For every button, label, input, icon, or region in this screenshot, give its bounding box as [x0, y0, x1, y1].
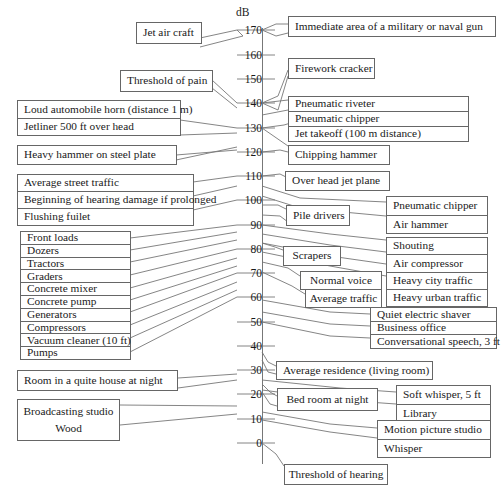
- axis-tick-160: 160: [228, 49, 262, 61]
- axis-tick-110: 110: [228, 170, 262, 182]
- label-average-street-traffic: Average street traffic: [18, 175, 193, 192]
- axis-tick-20: 20: [228, 388, 262, 400]
- label-concrete-mixer: Concrete mixer: [21, 283, 130, 296]
- label-pneumatic-chipper-2: Pneumatic chipper: [387, 197, 487, 216]
- label-group-pneumatic: Pneumatic riveter Pneumatic chipper Jet …: [288, 96, 469, 142]
- label-conversational-speech: Conversational speech, 3 ft: [371, 335, 496, 348]
- label-pumps: Pumps: [21, 347, 130, 359]
- label-military-naval-gun: Immediate area of a military or naval gu…: [288, 16, 496, 37]
- axis-tick-30: 30: [228, 364, 262, 376]
- label-broadcasting-studio-line2: Wood: [55, 423, 82, 434]
- label-heavy-hammer-steel-plate: Heavy hammer on steel plate: [17, 145, 177, 165]
- label-bed-room-at-night: Bed room at night: [277, 388, 378, 411]
- label-shouting: Shouting: [387, 238, 487, 255]
- axis-tick-150: 150: [228, 73, 262, 85]
- label-average-traffic: Average traffic: [305, 289, 382, 308]
- axis-tick-70: 70: [228, 267, 262, 279]
- label-flushing-toilet: Flushing fuilet: [18, 209, 193, 225]
- label-scrapers: Scrapers: [283, 246, 341, 266]
- label-chipping-hammer: Chipping hammer: [288, 145, 390, 165]
- label-pile-drivers: Pile drivers: [286, 205, 350, 226]
- label-group-shouting: Shouting Air compressor Heavy city traff…: [386, 237, 488, 307]
- label-pneumatic-chipper: Pneumatic chipper: [289, 112, 468, 127]
- axis-title: dB: [236, 6, 249, 18]
- label-group-motion-picture: Motion picture studio Whisper: [377, 420, 491, 458]
- label-average-residence: Average residence (living room): [276, 361, 433, 380]
- axis-tick-10: 10: [228, 413, 262, 425]
- axis-tick-170: 170: [228, 24, 262, 36]
- label-over-head-jet-plane: Over head jet plane: [285, 171, 390, 191]
- axis-tick-140: 140: [228, 97, 262, 109]
- label-pneumatic-riveter: Pneumatic riveter: [289, 97, 468, 112]
- label-group-loud-horn: Loud automobile horn (distance 1 m) Jetl…: [17, 100, 181, 136]
- label-heavy-city-traffic: Heavy city traffic: [387, 273, 487, 290]
- label-group-soft-whisper: Soft whisper, 5 ft Library: [396, 385, 491, 423]
- label-front-loads: Front loads: [21, 232, 130, 245]
- label-generators: Generators: [21, 309, 130, 322]
- label-group-street-traffic: Average street traffic Beginning of hear…: [17, 174, 194, 226]
- label-hearing-damage: Beginning of hearing damage if prolonged: [18, 192, 193, 209]
- axis-tick-120: 120: [228, 146, 262, 158]
- label-loud-automobile-horn: Loud automobile horn (distance 1 m): [18, 101, 180, 119]
- axis-tick-60: 60: [228, 291, 262, 303]
- axis-tick-40: 40: [228, 340, 262, 352]
- db-axis-line: [262, 28, 263, 464]
- label-room-quiet-house: Room in a quite house at night: [17, 370, 178, 391]
- label-threshold-of-pain: Threshold of pain: [120, 70, 213, 92]
- label-whisper: Whisper: [378, 440, 490, 458]
- label-soft-whisper: Soft whisper, 5 ft: [397, 386, 490, 405]
- label-tractors: Tractors: [21, 258, 130, 271]
- label-air-compressor: Air compressor: [387, 255, 487, 272]
- label-jet-air-craft: Jet air craft: [136, 22, 202, 44]
- label-air-hammer: Air hammer: [387, 216, 487, 234]
- label-business-office: Business office: [371, 322, 496, 336]
- label-quiet-electric-shaver: Quiet electric shaver: [371, 308, 496, 322]
- label-firework-cracker: Firework cracker: [288, 58, 375, 79]
- label-broadcasting-studio: Broadcasting studio Wood: [17, 399, 120, 441]
- axis-tick-130: 130: [228, 122, 262, 134]
- label-concrete-pump: Concrete pump: [21, 296, 130, 309]
- label-compressors: Compressors: [21, 322, 130, 335]
- label-group-pneumatic-air: Pneumatic chipper Air hammer: [386, 196, 488, 234]
- label-graders: Graders: [21, 270, 130, 283]
- axis-tick-90: 90: [228, 219, 262, 231]
- label-jet-takeoff: Jet takeoff (100 m distance): [289, 127, 468, 141]
- axis-tick-0: 0: [228, 437, 262, 449]
- label-normal-voice: Normal voice: [300, 271, 382, 290]
- label-jetliner-500ft: Jetliner 500 ft over head: [18, 119, 180, 136]
- label-group-shaver: Quiet electric shaver Business office Co…: [370, 307, 497, 349]
- axis-tick-50: 50: [228, 316, 262, 328]
- label-motion-picture-studio: Motion picture studio: [378, 421, 490, 440]
- label-threshold-of-hearing: Threshold of hearing: [284, 464, 388, 485]
- label-broadcasting-studio-line1: Broadcasting studio: [23, 406, 113, 417]
- label-dozers: Dozers: [21, 245, 130, 258]
- label-heavy-urban-traffic: Heavy urban traffic: [387, 290, 487, 306]
- decibel-scale-diagram: dB 170 160 150 140 130 120 110 100 90 80…: [0, 0, 502, 489]
- label-group-construction-equipment: Front loads Dozers Tractors Graders Conc…: [20, 231, 131, 360]
- label-vacuum-cleaner: Vacuum cleaner (10 ft): [21, 334, 130, 347]
- axis-tick-100: 100: [228, 194, 262, 206]
- axis-tick-80: 80: [228, 243, 262, 255]
